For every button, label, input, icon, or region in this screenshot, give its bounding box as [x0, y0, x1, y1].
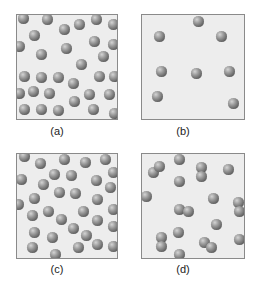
- particle-sphere: [216, 31, 227, 42]
- particle-sphere: [44, 88, 55, 99]
- particle-sphere: [105, 182, 116, 193]
- particle-sphere: [16, 174, 27, 185]
- particle-sphere: [94, 71, 105, 82]
- particle-sphere: [108, 204, 119, 215]
- panel-b-label: (b): [163, 125, 203, 137]
- particle-sphere: [35, 158, 46, 169]
- particle-sphere: [19, 104, 30, 115]
- particle-sphere: [223, 164, 234, 175]
- panel-a: [16, 14, 118, 120]
- particle-sphere: [19, 153, 30, 162]
- particle-sphere: [19, 71, 30, 82]
- particle-sphere: [59, 154, 70, 165]
- particle-sphere: [92, 215, 103, 226]
- particle-sphere: [92, 194, 103, 205]
- particle-sphere: [108, 39, 119, 50]
- particle-sphere: [84, 89, 95, 100]
- particle-sphere: [91, 175, 102, 186]
- particle-sphere: [36, 104, 47, 115]
- particle-sphere: [53, 72, 64, 83]
- particle-sphere: [29, 193, 40, 204]
- particle-sphere: [193, 16, 204, 27]
- particle-sphere: [27, 242, 38, 253]
- particle-sphere: [154, 31, 165, 42]
- panel-c: [16, 153, 118, 259]
- particle-sphere: [81, 230, 92, 241]
- particle-sphere: [59, 24, 70, 35]
- particle-sphere: [68, 78, 79, 89]
- panel-d-label: (d): [163, 263, 203, 275]
- particle-sphere: [100, 154, 111, 165]
- particle-sphere: [91, 14, 102, 25]
- particle-sphere: [108, 19, 119, 30]
- particle-sphere: [183, 206, 194, 217]
- particle-sphere: [173, 227, 184, 238]
- particle-sphere: [49, 169, 60, 180]
- particle-sphere: [191, 68, 202, 79]
- particle-sphere: [174, 154, 185, 165]
- particle-sphere: [54, 187, 65, 198]
- particle-sphere: [38, 179, 49, 190]
- particle-sphere: [108, 241, 119, 252]
- particle-sphere: [92, 239, 103, 250]
- particle-sphere: [66, 170, 77, 181]
- particle-sphere: [206, 242, 217, 253]
- particle-sphere: [70, 188, 81, 199]
- particle-sphere: [28, 86, 39, 97]
- particle-sphere: [211, 219, 222, 230]
- panel-b: [141, 14, 245, 120]
- particle-sphere: [16, 41, 25, 52]
- particle-sphere: [208, 193, 219, 204]
- particle-sphere: [109, 108, 119, 119]
- panel-a-label: (a): [37, 125, 77, 137]
- particle-sphere: [56, 214, 67, 225]
- particle-sphere: [53, 105, 64, 116]
- particle-sphere: [152, 91, 163, 102]
- particle-sphere: [109, 71, 119, 82]
- particle-sphere: [154, 161, 165, 172]
- particle-sphere: [61, 43, 72, 54]
- particle-sphere: [36, 72, 47, 83]
- panel-d: [141, 153, 245, 259]
- particle-sphere: [36, 49, 47, 60]
- particle-sphere: [47, 232, 58, 243]
- particle-sphere: [43, 206, 54, 217]
- particle-sphere: [27, 210, 38, 221]
- particle-sphere: [104, 89, 115, 100]
- particle-sphere: [42, 14, 53, 25]
- particle-sphere: [234, 234, 245, 245]
- particle-sphere: [69, 96, 80, 107]
- particle-sphere: [98, 51, 109, 62]
- particle-sphere: [68, 223, 79, 234]
- particle-sphere: [73, 242, 84, 253]
- particle-sphere: [74, 19, 85, 30]
- particle-sphere: [89, 36, 100, 47]
- particle-sphere: [80, 157, 91, 168]
- particle-sphere: [108, 167, 119, 178]
- particle-sphere: [108, 221, 119, 232]
- particle-sphere: [141, 191, 152, 202]
- particle-sphere: [16, 199, 24, 210]
- particle-sphere: [29, 30, 40, 41]
- particle-sphere: [16, 88, 25, 99]
- particle-sphere: [234, 206, 245, 217]
- particle-sphere: [29, 227, 40, 238]
- panel-c-label: (c): [37, 263, 77, 275]
- particle-sphere: [156, 66, 167, 77]
- particle-sphere: [18, 14, 29, 24]
- particle-sphere: [156, 241, 167, 252]
- particle-sphere: [196, 171, 207, 182]
- particle-sphere: [78, 206, 89, 217]
- particle-sphere: [76, 59, 87, 70]
- particle-sphere: [174, 176, 185, 187]
- particle-sphere: [228, 98, 239, 109]
- particle-sphere: [50, 249, 61, 260]
- particle-sphere: [224, 66, 235, 77]
- particle-sphere: [174, 249, 185, 260]
- particle-sphere: [88, 104, 99, 115]
